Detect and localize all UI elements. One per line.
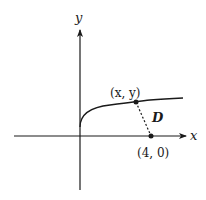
diagram-canvas: y x (x, y) D (4, 0) (0, 0, 206, 200)
y-axis-label: y (74, 10, 83, 25)
point-on-curve (134, 100, 139, 105)
point-4-0 (149, 134, 154, 139)
point-xy-label: (x, y) (110, 86, 141, 100)
x-axis-label: x (190, 128, 198, 143)
point-4-0-label: (4, 0) (137, 146, 169, 160)
distance-segment (136, 102, 151, 136)
distance-label: D (151, 110, 164, 125)
sqrt-curve (80, 98, 183, 127)
